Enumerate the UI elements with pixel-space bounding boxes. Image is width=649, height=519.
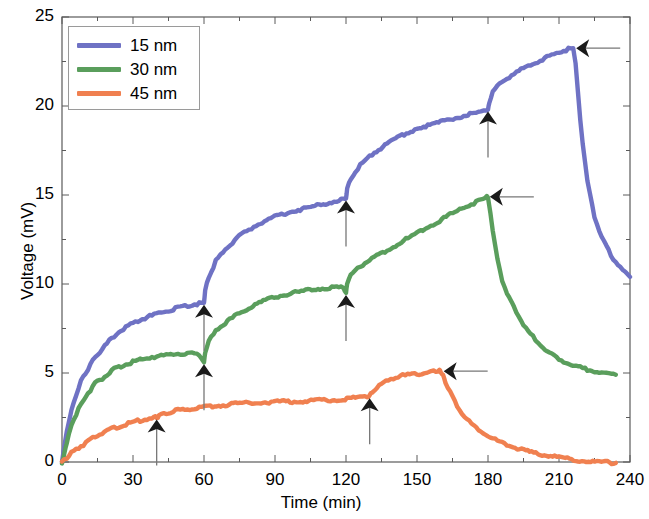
x-tick-label: 210 [539,470,579,490]
x-tick-label: 90 [255,470,295,490]
x-tick-label: 180 [468,470,508,490]
x-tick-label: 120 [326,470,366,490]
legend-item[interactable]: 30 nm [77,57,191,81]
legend-item[interactable]: 15 nm [77,33,191,57]
x-tick-label: 30 [113,470,153,490]
y-tick-label: 15 [20,184,54,204]
x-tick-label: 0 [42,470,82,490]
legend-swatch [77,67,121,72]
legend-label: 45 nm [130,85,177,102]
legend-item[interactable]: 45 nm [77,81,191,105]
y-tick-label: 10 [20,273,54,293]
series-line-45-nm [62,370,616,464]
y-tick-label: 20 [20,95,54,115]
legend-swatch [77,43,121,48]
series-line-30-nm [62,196,616,463]
legend-label: 30 nm [130,61,177,78]
x-tick-label: 240 [610,470,649,490]
y-tick-label: 0 [20,451,54,471]
x-axis-label: Time (min) [0,493,642,513]
legend: 15 nm30 nm45 nm [68,26,200,110]
legend-swatch [77,91,121,96]
y-tick-label: 5 [20,362,54,382]
x-tick-label: 60 [184,470,224,490]
legend-label: 15 nm [130,37,177,54]
x-tick-label: 150 [397,470,437,490]
y-tick-label: 25 [20,6,54,26]
